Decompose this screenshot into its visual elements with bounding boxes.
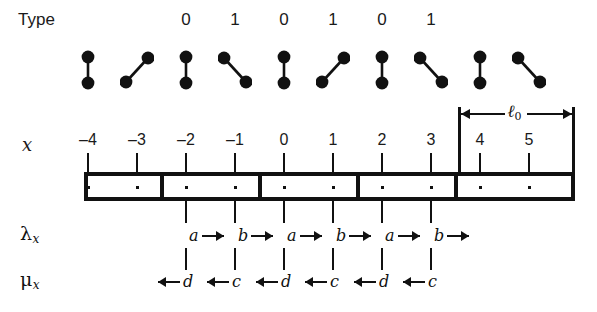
lambda-rate-arrow: b — [434, 226, 469, 246]
mu-rate-arrow: c — [207, 272, 241, 292]
mu-rate-letter: c — [428, 274, 437, 290]
lattice-site-dot — [283, 186, 286, 189]
lambda-rate-arrow: a — [189, 226, 224, 246]
mu-rate-arrow: d — [354, 272, 389, 292]
mu-rate-arrow: d — [256, 272, 291, 292]
mu-rate-letter: d — [379, 274, 389, 290]
lambda-subscript: x — [33, 232, 40, 246]
lattice-site-dot — [136, 186, 139, 189]
mu-rate-arrow: c — [403, 272, 437, 292]
dumbbell-vertical — [267, 50, 301, 90]
lambda-stem — [381, 197, 383, 223]
bracket-bar-right — [527, 113, 573, 115]
type-digit: 0 — [174, 10, 198, 30]
x-row-label: x — [22, 134, 32, 155]
lambda-glyph: λ — [20, 222, 32, 244]
lambda-rate-letter: b — [336, 228, 346, 244]
cell-divider — [454, 172, 458, 201]
dumbbell-vertical — [71, 50, 105, 90]
dumbbell-diagonal-down — [218, 50, 252, 90]
arrow-right-icon — [300, 231, 322, 241]
lattice-site-dot — [332, 186, 335, 189]
mu-rate-arrow: c — [305, 272, 339, 292]
arrow-left-icon — [207, 277, 229, 287]
mu-rate-letter: d — [183, 274, 193, 290]
dumbbell-diagonal-up — [120, 50, 154, 90]
type-row-label: Type — [18, 10, 55, 30]
x-tick-number: 5 — [512, 131, 546, 149]
lattice-site-dot — [185, 186, 188, 189]
cell-divider — [356, 172, 360, 201]
type-digit: 1 — [321, 10, 345, 30]
cell-divider — [258, 172, 262, 201]
ell0-label: ℓ0 — [505, 101, 525, 123]
lambda-rate-letter: a — [385, 228, 395, 244]
lattice-site-dot — [381, 186, 384, 189]
mu-rate-letter: c — [330, 274, 339, 290]
mu-subscript: x — [33, 278, 40, 292]
bracket-arrowhead-right — [563, 109, 572, 119]
dumbbell-vertical — [169, 50, 203, 90]
ell-glyph: ℓ — [508, 101, 515, 121]
lambda-rate-arrow: a — [287, 226, 322, 246]
type-digit: 0 — [370, 10, 394, 30]
type-digit: 1 — [223, 10, 247, 30]
mu-rate-letter: d — [281, 274, 291, 290]
dumbbell-vertical — [365, 50, 399, 90]
mu-rate-arrow: d — [158, 272, 193, 292]
lattice-site-dot — [87, 186, 90, 189]
x-tick-number: 1 — [316, 131, 350, 149]
lambda-rate-arrow: b — [238, 226, 273, 246]
lambda-rate-letter: a — [189, 228, 199, 244]
x-tick-number: 3 — [414, 131, 448, 149]
cell-divider — [160, 172, 164, 201]
bracket-arrowhead-left — [461, 109, 470, 119]
mu-rate-letter: c — [232, 274, 241, 290]
lattice-site-dot — [479, 186, 482, 189]
ell0-measure-bracket: ℓ0 — [0, 0, 597, 312]
lattice-site-dot — [528, 186, 531, 189]
mu-stem — [430, 248, 432, 270]
lattice-site-dot — [430, 186, 433, 189]
arrow-left-icon — [256, 277, 278, 287]
dumbbell-vertical — [463, 50, 497, 90]
arrow-right-icon — [202, 231, 224, 241]
lambda-stem — [185, 197, 187, 223]
x-tick-number: –4 — [71, 131, 105, 149]
type-digit: 1 — [419, 10, 443, 30]
mu-row-label: μx — [20, 268, 40, 292]
lambda-stem — [430, 197, 432, 223]
lambda-rate-letter: b — [238, 228, 248, 244]
x-tick-number: –1 — [218, 131, 252, 149]
arrow-left-icon — [403, 277, 425, 287]
bracket-right-post — [572, 107, 575, 176]
arrow-right-icon — [349, 231, 371, 241]
x-tick-number: –2 — [169, 131, 203, 149]
mu-stem — [381, 248, 383, 270]
lattice-site-dot — [234, 186, 237, 189]
lambda-stem — [234, 197, 236, 223]
arrow-left-icon — [354, 277, 376, 287]
lambda-stem — [332, 197, 334, 223]
bracket-bar-left — [461, 113, 507, 115]
bracket-left-post — [458, 107, 461, 176]
lambda-row-label: λx — [20, 222, 39, 246]
lambda-rate-arrow: b — [336, 226, 371, 246]
type-digit: 0 — [272, 10, 296, 30]
dumbbell-diagonal-up — [316, 50, 350, 90]
dumbbell-diagonal-down — [512, 50, 546, 90]
lambda-rate-letter: a — [287, 228, 297, 244]
mu-stem — [185, 248, 187, 270]
dumbbell-diagonal-down — [414, 50, 448, 90]
mu-glyph: μ — [20, 268, 32, 290]
arrow-right-icon — [251, 231, 273, 241]
arrow-right-icon — [398, 231, 420, 241]
ell-subscript: 0 — [515, 110, 522, 123]
lambda-rate-arrow: a — [385, 226, 420, 246]
arrow-left-icon — [305, 277, 327, 287]
x-tick-number: –3 — [120, 131, 154, 149]
lambda-rate-letter: b — [434, 228, 444, 244]
lambda-stem — [283, 197, 285, 223]
mu-stem — [283, 248, 285, 270]
x-tick-number: 0 — [267, 131, 301, 149]
